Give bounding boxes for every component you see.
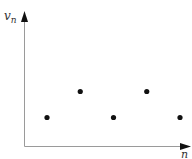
data-point xyxy=(144,89,149,94)
data-point xyxy=(44,115,49,120)
y-axis-label: vn xyxy=(4,9,17,25)
data-point xyxy=(111,115,116,120)
data-point xyxy=(177,115,182,120)
y-axis-arrow-icon xyxy=(21,11,28,22)
x-axis-label: n xyxy=(181,148,188,159)
data-points xyxy=(44,89,182,120)
chart: vn n xyxy=(0,0,192,159)
data-point xyxy=(78,89,83,94)
